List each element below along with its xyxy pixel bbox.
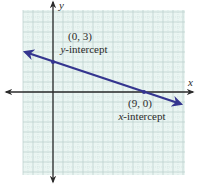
x-intercept-label: x-intercept: [117, 110, 165, 122]
y-intercept-coordinate: (0, 3): [68, 30, 92, 43]
coordinate-graph: x y (0, 3) y-intercept (9, 0) x-intercep…: [0, 0, 199, 185]
x-intercept-point: [142, 90, 146, 94]
y-intercept-point: [51, 60, 55, 64]
x-axis-label: x: [187, 76, 193, 88]
y-axis-label: y: [58, 0, 64, 11]
y-intercept-text: -intercept: [65, 43, 107, 55]
x-intercept-coordinate: (9, 0): [128, 97, 152, 110]
x-intercept-text: -intercept: [123, 110, 165, 122]
y-intercept-label: y-intercept: [59, 43, 107, 55]
